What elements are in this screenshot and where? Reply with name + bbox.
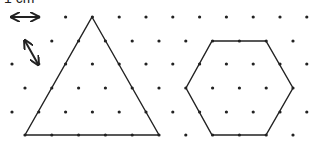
grid-dot — [144, 62, 147, 65]
grid-dot — [184, 39, 187, 42]
grid-dot — [91, 110, 94, 113]
scale-label: 1 cm — [4, 0, 34, 5]
grid-dot — [305, 110, 308, 113]
grid-dot — [91, 62, 94, 65]
grid-dot — [104, 86, 107, 89]
grid-dot — [171, 110, 174, 113]
triangle-shape — [25, 17, 159, 135]
grid-dot — [305, 62, 308, 65]
grid-dot — [305, 15, 308, 18]
grid-dot — [198, 15, 201, 18]
grid-dot — [211, 86, 214, 89]
grid-dot — [157, 39, 160, 42]
grid-dot — [144, 15, 147, 18]
grid-dot — [118, 15, 121, 18]
dot-grid-canvas — [0, 0, 309, 144]
grid-dots — [10, 15, 308, 136]
grid-dot — [252, 15, 255, 18]
grid-dot — [118, 110, 121, 113]
grid-dot — [278, 15, 281, 18]
grid-dot — [238, 86, 241, 89]
grid-dot — [265, 86, 268, 89]
grid-dot — [131, 39, 134, 42]
grid-dot — [291, 39, 294, 42]
grid-dot — [50, 39, 53, 42]
shapes — [25, 17, 293, 135]
grid-dot — [64, 15, 67, 18]
grid-dot — [225, 110, 228, 113]
isometric-dot-diagram: 1 cm — [0, 0, 309, 144]
grid-dot — [157, 86, 160, 89]
grid-dot — [252, 62, 255, 65]
grid-dot — [225, 15, 228, 18]
grid-dot — [10, 62, 13, 65]
grid-dot — [77, 86, 80, 89]
grid-dot — [10, 110, 13, 113]
grid-dot — [225, 62, 228, 65]
grid-dot — [23, 86, 26, 89]
grid-dot — [184, 133, 187, 136]
grid-dot — [64, 110, 67, 113]
diagonal-1cm-arrow — [25, 41, 38, 64]
grid-dot — [291, 133, 294, 136]
grid-dot — [171, 15, 174, 18]
grid-dot — [171, 62, 174, 65]
grid-dot — [252, 110, 255, 113]
